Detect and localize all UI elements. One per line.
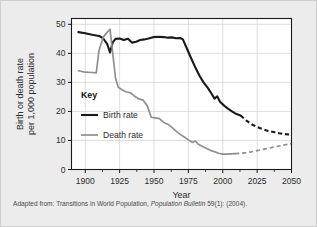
y-axis-tick-label: 40 xyxy=(56,48,66,58)
y-axis-tick-label: 20 xyxy=(56,106,66,116)
caption-source-title: Population Bulletin xyxy=(151,200,206,208)
legend-label-birth-rate: Birth rate xyxy=(103,110,138,120)
x-axis-tick-label: 1975 xyxy=(179,176,198,186)
y-axis-tick-label: 50 xyxy=(56,19,66,29)
y-axis-tick-label: 30 xyxy=(56,77,66,87)
caption: Adapted from: Transitions in World Popul… xyxy=(13,200,247,208)
x-axis-tick-label: 2025 xyxy=(248,176,267,186)
birth-death-rate-chart: 010203040501900192519501975200020252050Y… xyxy=(1,1,317,227)
legend-label-death-rate: Death rate xyxy=(103,130,143,140)
y-axis-tick-label: 10 xyxy=(56,135,66,145)
caption-prefix: Adapted from: Transitions in World Popul… xyxy=(13,200,151,208)
x-axis-title: Year xyxy=(172,190,190,200)
y-axis-title-line2: per 1,000 population xyxy=(26,53,36,135)
legend-title: Key xyxy=(81,90,97,100)
x-axis-tick-label: 2050 xyxy=(282,176,301,186)
caption-suffix: 59(1): (2004). xyxy=(205,200,247,208)
x-axis-tick-label: 1925 xyxy=(110,176,129,186)
y-axis-tick-label: 0 xyxy=(61,165,66,175)
x-axis-tick-label: 1900 xyxy=(76,176,95,186)
y-axis-title-line1: Birth or death rate xyxy=(15,58,25,130)
x-axis-tick-label: 1950 xyxy=(145,176,164,186)
figure-container: 010203040501900192519501975200020252050Y… xyxy=(0,0,317,227)
x-axis-tick-label: 2000 xyxy=(213,176,232,186)
